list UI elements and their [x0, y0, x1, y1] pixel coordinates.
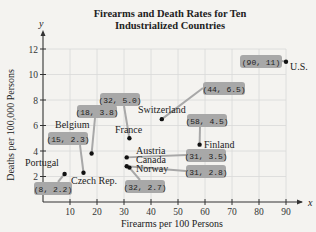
x-tick-label: 80: [254, 207, 264, 217]
callout-coords-u-s: (90, 11): [242, 58, 280, 67]
callout-pointer: [80, 145, 84, 173]
data-point-u-s: [284, 60, 288, 64]
y-tick-label: 6: [33, 121, 38, 131]
data-point-switzerland: [160, 117, 164, 121]
x-tick-label: 20: [92, 207, 102, 217]
y-axis-letter: y: [38, 18, 44, 29]
country-labels: U.S.SwitzerlandFinlandFranceBelgiumAustr…: [25, 61, 308, 186]
y-tick-label: 2: [33, 172, 38, 182]
scatter-plot: 10203040506070809024681012 (90, 11)(44, …: [0, 0, 316, 232]
callout-coords-belgium: (18, 3.8): [75, 108, 118, 117]
country-label-czech-rep: Czech Rep.: [71, 175, 117, 186]
callout-coords-canada: (31, 2.8): [184, 168, 227, 177]
x-tick-label: 10: [65, 207, 75, 217]
data-point-belgium: [89, 151, 93, 155]
y-tick-label: 4: [33, 147, 38, 157]
x-tick-label: 30: [119, 207, 129, 217]
y-tick-label: 10: [29, 70, 39, 80]
data-point-portugal: [62, 172, 66, 176]
callout-coords-czech-rep: (15, 2.3): [46, 135, 89, 144]
x-tick-label: 50: [173, 207, 183, 217]
y-tick-label: 12: [29, 45, 39, 55]
x-tick-label: 40: [146, 207, 156, 217]
x-axis-label: Firearms per 100 Persons: [121, 218, 223, 229]
country-label-portugal: Portugal: [25, 157, 59, 168]
data-point-finland: [197, 142, 201, 146]
x-axis-arrow-icon: [297, 200, 303, 205]
callout-coords-austria: (31, 3.5): [184, 152, 227, 161]
x-tick-label: 90: [281, 207, 291, 217]
data-point-austria: [125, 155, 129, 159]
country-label-norway: Norway: [136, 163, 168, 174]
country-label-u-s: U.S.: [290, 61, 308, 72]
callout-coords-portugal: (8, 2.2): [34, 185, 72, 194]
x-tick-label: 60: [200, 207, 210, 217]
country-label-finland: Finland: [204, 139, 235, 150]
callout-coords-france: (32, 5.0): [98, 96, 141, 105]
data-point-norway: [127, 165, 131, 169]
y-tick-label: 8: [33, 96, 38, 106]
callout-coords-switzerland: (44, 6.5): [202, 85, 245, 94]
data-point-france: [127, 136, 131, 140]
country-label-belgium: Belgium: [55, 119, 90, 130]
callout-coords-finland: (58, 4.5): [185, 117, 228, 126]
y-axis-arrow-icon: [41, 30, 46, 36]
callout-pointer: [92, 118, 95, 154]
country-label-france: France: [115, 124, 143, 135]
callout-coords-norway: (32, 2.7): [123, 183, 166, 192]
country-label-switzerland: Switzerland: [138, 104, 186, 115]
x-tick-label: 70: [227, 207, 237, 217]
y-axis-label: Deaths per 100,000 Persons: [5, 69, 16, 181]
x-axis-letter: x: [307, 197, 313, 208]
